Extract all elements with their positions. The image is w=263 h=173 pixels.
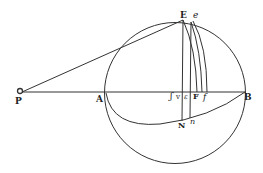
label-f: f (202, 92, 208, 102)
geometry-figure: P A B E e ʃ v ε F f N n (0, 0, 263, 173)
label-v: v (175, 93, 180, 101)
label-epsilon: ε (184, 93, 188, 101)
main-circle (105, 23, 246, 164)
label-N: N (178, 120, 185, 130)
label-n: n (190, 117, 195, 126)
line-EN (182, 20, 183, 121)
line-PE (22, 20, 183, 92)
label-P: P (15, 96, 22, 106)
label-E: E (180, 10, 187, 20)
label-F: F (193, 91, 199, 101)
line-en (190, 22, 191, 118)
point-P-marker (18, 89, 23, 94)
label-B: B (244, 92, 252, 102)
label-e: e (193, 10, 198, 20)
label-A: A (95, 94, 104, 104)
arc-e-f (193, 21, 207, 92)
